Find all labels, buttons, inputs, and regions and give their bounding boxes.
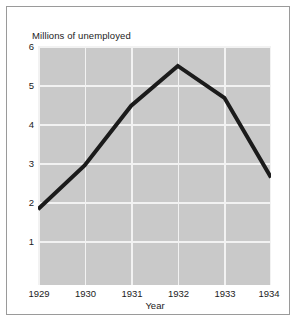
x-tick-1929: 1929	[28, 288, 49, 299]
plot-area	[38, 46, 271, 285]
x-tick-1932: 1932	[168, 288, 189, 299]
y-tick-4: 4	[6, 119, 34, 130]
x-tick-1933: 1933	[214, 288, 235, 299]
x-axis-title: Year	[38, 300, 272, 311]
x-tick-1930: 1930	[75, 288, 96, 299]
y-tick-1: 1	[6, 236, 34, 247]
x-tick-1934: 1934	[258, 288, 279, 299]
line-chart: Millions of unemployed 6 5 4 3 2 1 1929 …	[0, 0, 307, 328]
y-tick-5: 5	[6, 80, 34, 91]
series-line-unemployed	[38, 66, 271, 209]
y-tick-6: 6	[6, 41, 34, 52]
data-series-unemployed	[38, 46, 271, 285]
y-tick-2: 2	[6, 197, 34, 208]
y-axis-title: Millions of unemployed	[32, 30, 131, 41]
y-axis-tick-labels: 6 5 4 3 2 1	[0, 0, 34, 328]
y-tick-3: 3	[6, 158, 34, 169]
x-tick-1931: 1931	[121, 288, 142, 299]
